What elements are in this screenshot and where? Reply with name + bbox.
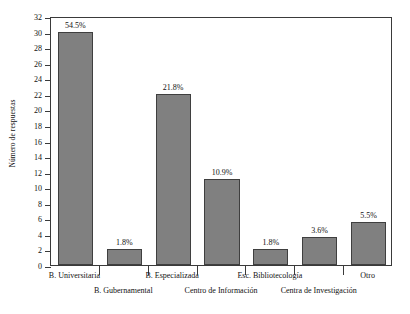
x-axis-category-label: B. Gubernamental [94, 286, 153, 295]
y-axis-title: Número de respuestas [4, 0, 20, 266]
y-axis-tick-label: 4 [38, 230, 42, 241]
y-axis-tick-label: 28 [34, 43, 42, 54]
y-axis-tick-label: 10 [34, 183, 42, 194]
x-axis-category-separator [343, 266, 344, 275]
y-axis-tick-label: 24 [34, 74, 42, 85]
x-axis-category-label: Esc. Bibliotecología [237, 271, 302, 280]
bar-value-label: 5.5% [344, 211, 393, 220]
x-axis-category-separator [294, 266, 295, 275]
bar[interactable] [58, 32, 93, 265]
bar[interactable] [107, 249, 142, 265]
y-axis-tick-label: 32 [34, 12, 42, 23]
bar[interactable] [156, 94, 191, 265]
y-axis-tick-label: 16 [34, 137, 42, 148]
y-axis-tick-label: 30 [34, 28, 42, 39]
plot-area: 02468101214161820222426283032 54.5%1.8%2… [50, 17, 392, 266]
x-axis-category-label: Otro [360, 271, 375, 280]
bar[interactable] [253, 249, 288, 265]
y-axis-tick-label: 20 [34, 105, 42, 116]
bar-chart-figure: Número de respuestas 0246810121416182022… [0, 0, 410, 314]
y-axis-tick-label: 22 [34, 90, 42, 101]
bar-slot: 1.8% [246, 18, 295, 265]
bar-value-label: 1.8% [100, 238, 149, 247]
y-axis-tick-label: 18 [34, 121, 42, 132]
bar-series: 54.5%1.8%21.8%10.9%1.8%3.6%5.5% [51, 18, 391, 265]
bar-slot: 54.5% [51, 18, 100, 265]
bar-value-label: 10.9% [198, 168, 247, 177]
y-axis-tick-label: 8 [38, 199, 42, 210]
bar-slot: 5.5% [344, 18, 393, 265]
x-axis-category-label: B. Especializada [145, 271, 198, 280]
x-axis-category-label: B. Universitaria [49, 271, 100, 280]
bar-value-label: 3.6% [295, 226, 344, 235]
bar-slot: 10.9% [198, 18, 247, 265]
bar-value-label: 21.8% [149, 83, 198, 92]
y-axis-tick-mark [45, 267, 51, 268]
bar[interactable] [302, 237, 337, 265]
bar-value-label: 54.5% [51, 21, 100, 30]
bar-slot: 1.8% [100, 18, 149, 265]
y-axis-tick-label: 0 [38, 261, 42, 272]
y-axis-tick-label: 26 [34, 59, 42, 70]
bar-slot: 3.6% [295, 18, 344, 265]
x-axis-category-label: Centro de Información [185, 286, 258, 295]
y-axis-title-text: Número de respuestas [8, 99, 17, 167]
x-axis-category-separator [99, 266, 100, 275]
y-axis-tick-label: 6 [38, 214, 42, 225]
x-axis-category-label: Centra de Investigación [281, 286, 357, 295]
bar[interactable] [204, 179, 239, 265]
y-axis-tick-label: 14 [34, 152, 42, 163]
bar-slot: 21.8% [149, 18, 198, 265]
x-axis-category-separator [197, 266, 198, 275]
y-axis-tick-label: 12 [34, 168, 42, 179]
bar-value-label: 1.8% [246, 238, 295, 247]
y-axis-tick-label: 2 [38, 245, 42, 256]
bar[interactable] [351, 222, 386, 265]
